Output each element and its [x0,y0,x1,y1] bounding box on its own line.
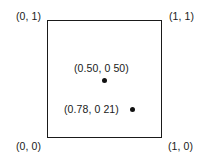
point-marker-second [130,107,135,112]
corner-label-bottom-right: (1, 0) [168,140,193,152]
point-label-center: (0.50, 0 50) [74,62,129,74]
point-label-second: (0.78, 0 21) [64,103,119,115]
corner-label-top-left: (0, 1) [16,10,41,22]
corner-label-bottom-left: (0, 0) [16,140,41,152]
corner-label-top-right: (1, 1) [169,10,194,22]
point-marker-center [102,78,107,83]
